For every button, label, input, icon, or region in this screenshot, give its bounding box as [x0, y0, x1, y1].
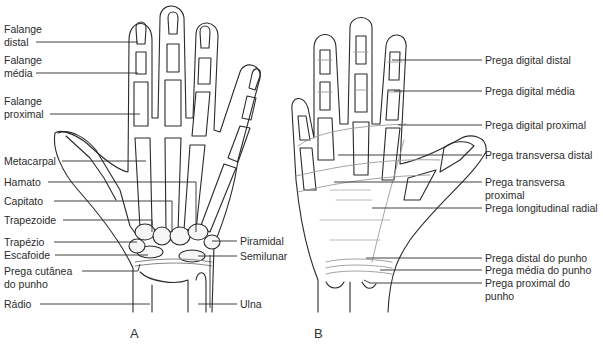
- label-semilunar: Semilunar: [240, 250, 287, 263]
- label-piramidal: Piramidal: [240, 235, 284, 248]
- label-line: Prega transversa: [485, 176, 565, 189]
- label-line: Prega cutânea: [4, 265, 72, 278]
- panel-letter-a: A: [130, 326, 139, 341]
- label-line: Falange: [4, 54, 42, 67]
- label-ulna: Ulna: [240, 298, 262, 311]
- label-prega-digital-proximal: Prega digital proximal: [485, 119, 586, 132]
- label-line: média: [4, 67, 42, 80]
- label-falange-proximal: Falange proximal: [4, 95, 44, 120]
- label-trapezio: Trapézio: [4, 236, 44, 249]
- hand-b-drawing: [292, 18, 486, 313]
- panel-letter-b: B: [314, 326, 323, 341]
- label-line: Falange: [4, 23, 42, 36]
- label-capitato: Capitato: [4, 195, 43, 208]
- label-line: proximal: [4, 108, 44, 121]
- label-hamato: Hamato: [4, 176, 41, 189]
- label-prega-digital-distal: Prega digital distal: [485, 54, 571, 67]
- label-metacarpal: Metacarpal: [4, 155, 56, 168]
- label-line: Prega proximal do: [485, 277, 570, 290]
- label-falange-media: Falange média: [4, 54, 42, 79]
- label-falange-distal: Falange distal: [4, 23, 42, 48]
- label-prega-transversa-proximal: Prega transversa proximal: [485, 176, 565, 201]
- label-prega-digital-media: Prega digital média: [485, 85, 575, 98]
- label-prega-media-do-punho: Prega média do punho: [485, 264, 591, 277]
- label-escafoide: Escafoide: [4, 249, 50, 262]
- hand-anatomy-figure: Falange distal Falange média Falange pro…: [0, 0, 603, 346]
- label-prega-cutanea-do-punho: Prega cutânea do punho: [4, 265, 72, 290]
- hand-a-drawing: [54, 6, 260, 312]
- label-line: Falange: [4, 95, 44, 108]
- label-prega-longitudinal-radial: Prega longitudinal radial: [485, 202, 598, 215]
- label-prega-proximal-do-punho: Prega proximal do punho: [485, 277, 570, 302]
- label-radio: Rádio: [4, 298, 31, 311]
- label-line: punho: [485, 290, 570, 303]
- label-prega-transversa-distal: Prega transversa distal: [485, 149, 592, 162]
- label-line: do punho: [4, 278, 72, 291]
- label-line: proximal: [485, 189, 565, 202]
- label-trapezoide: Trapezoide: [4, 214, 56, 227]
- label-prega-distal-do-punho: Prega distal do punho: [485, 252, 587, 265]
- label-line: distal: [4, 36, 42, 49]
